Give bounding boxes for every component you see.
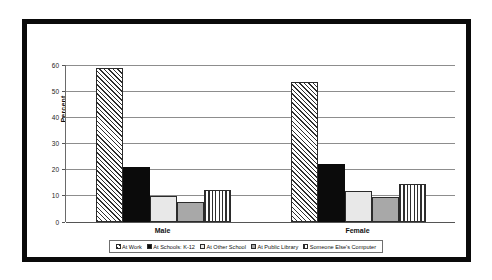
legend-label-4: At Public Library — [257, 244, 298, 250]
bar-male-series-4 — [177, 202, 204, 222]
legend-label-1: At Work — [122, 244, 142, 250]
y-tick-label-60: 60 — [33, 62, 59, 69]
x-axis-label-male: Male — [133, 227, 193, 234]
y-tick-label-50: 50 — [33, 88, 59, 95]
legend-item-5[interactable]: Someone Else's Computer — [303, 244, 376, 250]
bar-male-series-3 — [150, 196, 177, 222]
legend-swatch-icon-4 — [251, 244, 256, 249]
bar-male-series-1 — [96, 68, 123, 222]
bar-female-series-4 — [372, 197, 399, 222]
legend-item-1[interactable]: At Work — [116, 244, 142, 250]
legend-label-5: Someone Else's Computer — [310, 244, 376, 250]
gridline-40 — [66, 117, 455, 118]
legend-swatch-icon-3 — [200, 244, 205, 249]
gridline-60 — [66, 65, 455, 66]
legend-swatch-icon-1 — [116, 244, 121, 249]
y-tick-label-10: 10 — [33, 192, 59, 199]
bar-female-series-5 — [399, 184, 426, 222]
legend-item-4[interactable]: At Public Library — [251, 244, 298, 250]
legend-label-3: At Other School — [206, 244, 246, 250]
plot-area — [65, 65, 455, 222]
bar-female-series-3 — [345, 191, 372, 222]
y-tick-label-40: 40 — [33, 114, 59, 121]
screenshot-canvas: Percent 0102030405060 MaleFemale At Work… — [0, 0, 492, 280]
gridline-30 — [66, 143, 455, 144]
y-tick-label-20: 20 — [33, 166, 59, 173]
bar-female-series-2 — [318, 164, 345, 222]
legend-swatch-icon-5 — [303, 244, 308, 249]
legend-label-2: At Schools: K-12 — [153, 244, 195, 250]
bar-female-series-1 — [291, 82, 318, 223]
legend-item-2[interactable]: At Schools: K-12 — [147, 244, 195, 250]
chart-legend: At WorkAt Schools: K-12At Other SchoolAt… — [109, 240, 383, 253]
legend-swatch-icon-2 — [147, 244, 152, 249]
gridline-50 — [66, 91, 455, 92]
bar-male-series-5 — [204, 190, 231, 222]
chart-figure: Percent 0102030405060 MaleFemale At Work… — [27, 24, 466, 257]
y-tick-label-30: 30 — [33, 140, 59, 147]
plot-wrapper: Percent 0102030405060 MaleFemale — [27, 24, 466, 257]
legend-item-3[interactable]: At Other School — [200, 244, 246, 250]
x-axis-label-female: Female — [328, 227, 388, 234]
chart-frame: Percent 0102030405060 MaleFemale At Work… — [22, 19, 471, 262]
y-tick-label-0: 0 — [33, 219, 59, 226]
bar-male-series-2 — [123, 167, 150, 222]
